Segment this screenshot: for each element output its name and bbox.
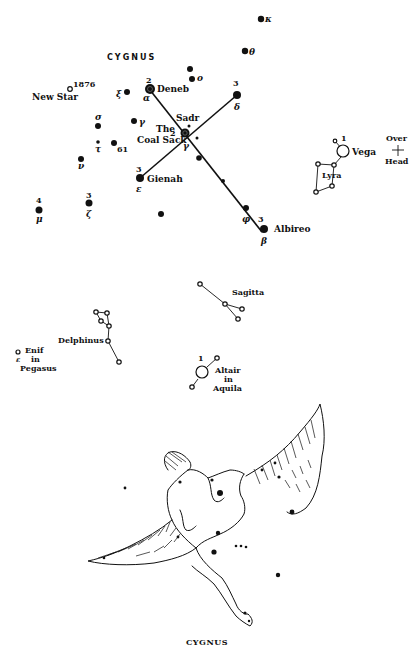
star-sigma xyxy=(95,123,101,129)
label-new-star: New Star xyxy=(32,92,78,102)
label-kappa: κ xyxy=(264,14,272,24)
star-lyra-3 xyxy=(330,184,334,188)
label-zeta: ζ xyxy=(86,209,92,219)
star-epsilon-lyrae xyxy=(333,139,337,143)
star-lone xyxy=(158,211,164,217)
star-vega xyxy=(337,145,349,157)
star-zeta xyxy=(86,200,93,207)
mag-deneb: 2 xyxy=(146,75,152,85)
star-gienah xyxy=(136,174,144,182)
label-gamma-small: γ xyxy=(139,117,146,127)
label-nu: ν xyxy=(78,161,85,171)
label-phi: φ xyxy=(242,214,251,224)
star-aquila-2 xyxy=(190,385,194,389)
swan-star-1 xyxy=(217,490,223,496)
star-enif xyxy=(16,350,20,354)
label-mu: μ xyxy=(36,214,43,224)
star-lyra-4 xyxy=(314,190,318,194)
star-delta xyxy=(233,91,241,99)
star-xi xyxy=(124,89,130,95)
star-delphinus-1 xyxy=(94,310,98,314)
star-delphinus-2 xyxy=(105,311,109,315)
star-altair xyxy=(196,366,208,378)
label-vega: Vega xyxy=(351,147,376,157)
mag-altair: 1 xyxy=(198,353,204,363)
label-albireo: Albireo xyxy=(273,224,311,234)
star-sagitta-4 xyxy=(236,317,240,321)
star-omicron-1 xyxy=(187,66,193,72)
label-new-star-year: 1876 xyxy=(73,79,96,89)
label-delphinus: Delphinus xyxy=(58,335,104,345)
star-mu xyxy=(36,207,43,214)
label-lyra: Lyra xyxy=(322,170,341,180)
star-axis xyxy=(221,179,225,183)
star-omicron-2 xyxy=(189,76,195,82)
label-theta: θ xyxy=(249,47,255,57)
label-delta: δ xyxy=(233,102,240,112)
label-sadr: Sadr xyxy=(176,113,200,123)
star-chart: CYGNUS κ θ o 2 Deneb α ξ 1876 New Star 3… xyxy=(0,0,420,653)
label-sigma: σ xyxy=(95,112,102,122)
label-coal-sack-1: The xyxy=(156,124,175,134)
star-sagitta-3 xyxy=(240,307,244,311)
label-deneb: Deneb xyxy=(157,84,189,94)
star-delphinus-5 xyxy=(106,339,110,343)
label-coal-sack-2: Coal Sack xyxy=(137,135,187,145)
swan-illustration xyxy=(88,404,324,626)
greek-gienah: ε xyxy=(136,184,142,194)
swan-star-2 xyxy=(211,549,216,554)
star-new-star xyxy=(68,87,73,92)
star-sagitta-1 xyxy=(198,282,202,286)
label-overhead-2: Head xyxy=(385,156,409,166)
star-sagitta-2 xyxy=(223,302,227,306)
star-sadr-companion xyxy=(188,125,191,128)
star-delphinus-6 xyxy=(117,360,121,364)
label-gienah: Gienah xyxy=(147,174,183,184)
star-lyra-2 xyxy=(316,162,320,166)
mag-gienah: 3 xyxy=(136,164,142,174)
greek-deneb: α xyxy=(143,93,150,103)
label-sagitta: Sagitta xyxy=(232,287,264,297)
star-theta xyxy=(242,48,248,54)
label-enif-3: Pegasus xyxy=(20,363,57,373)
label-tau: τ xyxy=(95,144,102,154)
chart-title: CYGNUS xyxy=(107,53,156,62)
star-delphinus-3 xyxy=(99,319,103,323)
swan-star-3 xyxy=(290,510,295,515)
label-overhead-1: Over xyxy=(386,133,408,143)
mag-vega: 1 xyxy=(341,133,347,143)
star-near-sadr xyxy=(196,137,199,140)
star-gamma-small xyxy=(131,118,137,124)
star-kappa xyxy=(258,16,264,22)
star-aquila-1 xyxy=(215,356,219,360)
star-albireo xyxy=(260,225,268,233)
star-phi xyxy=(243,205,249,211)
figure-caption: CYGNUS xyxy=(186,637,228,647)
label-61: 61 xyxy=(117,144,128,154)
greek-albireo: β xyxy=(260,236,267,246)
mag-delta: 3 xyxy=(233,78,239,88)
mag-albireo: 3 xyxy=(258,214,264,224)
mag-mu: 4 xyxy=(36,195,42,205)
mag-zeta: 3 xyxy=(86,190,92,200)
label-xi: ξ xyxy=(116,89,122,99)
label-altair-3: Aquila xyxy=(212,383,242,393)
label-omicron: o xyxy=(197,73,203,83)
star-delphinus-4 xyxy=(107,324,111,328)
star-eta xyxy=(196,155,202,161)
star-lyra-1 xyxy=(332,163,336,167)
